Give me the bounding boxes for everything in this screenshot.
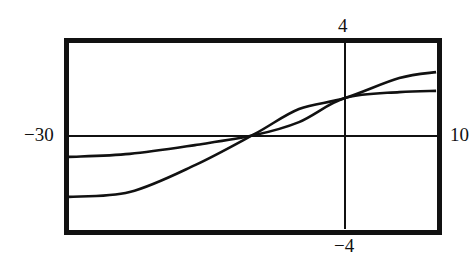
- curve-flat: [69, 91, 436, 157]
- graph-window: [0, 0, 476, 262]
- xmax-label: 10: [450, 125, 469, 144]
- ymin-label: −4: [334, 236, 354, 255]
- ymax-label: 4: [338, 16, 348, 35]
- xmin-label: −30: [24, 125, 54, 144]
